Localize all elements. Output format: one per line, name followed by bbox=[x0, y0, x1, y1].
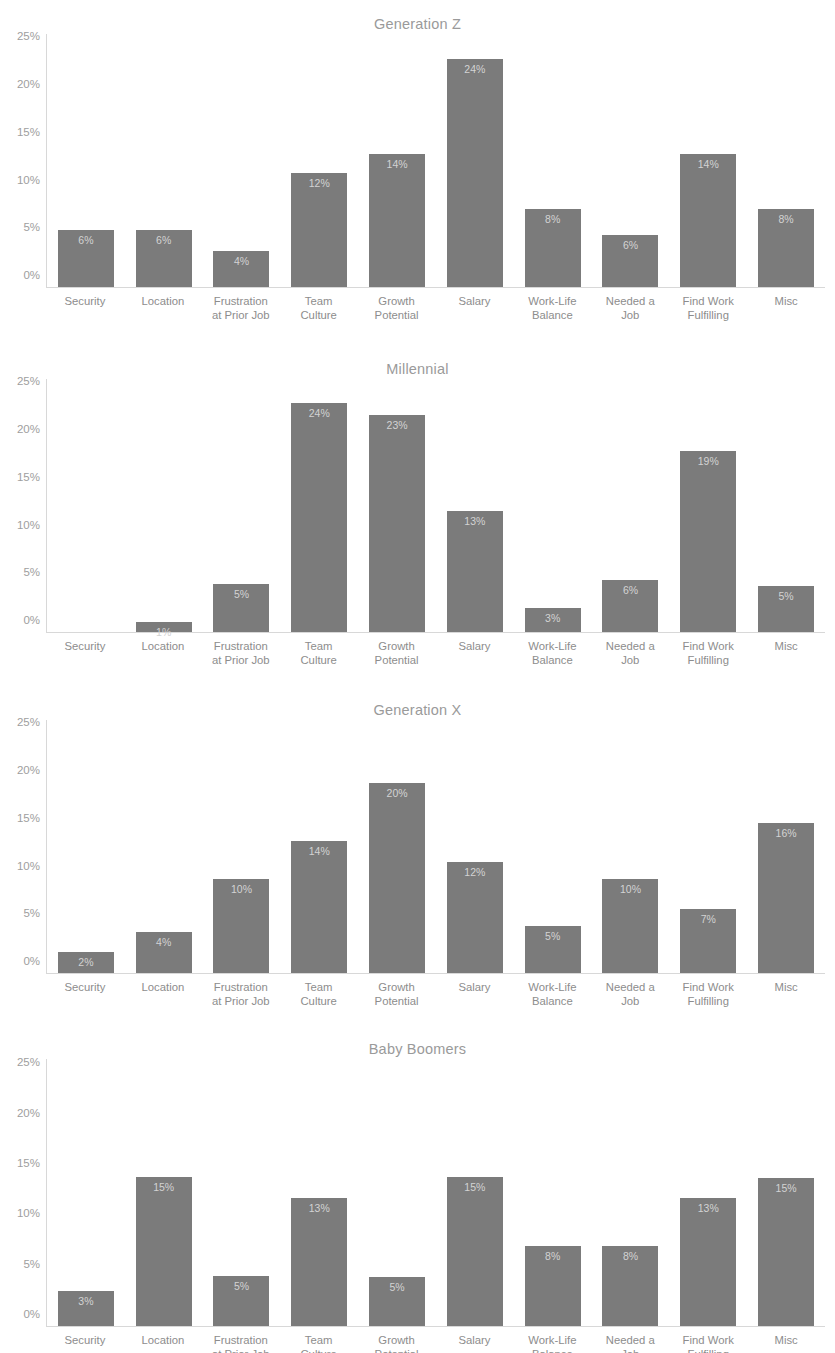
bar: 6% bbox=[602, 235, 658, 288]
bar: 4% bbox=[213, 251, 269, 287]
bar-series: 1%5%24%23%13%3%6%19%5% bbox=[47, 379, 825, 632]
x-axis-tick-label: Find Work Fulfilling bbox=[669, 635, 747, 679]
bar: 19% bbox=[680, 451, 736, 632]
bar: 15% bbox=[136, 1177, 192, 1326]
y-axis-tick-label: 25% bbox=[17, 1056, 47, 1068]
bar-cell: 10% bbox=[592, 720, 670, 973]
plot-area: 0%5%10%15%20%25%6%6%4%12%14%24%8%6%14%8% bbox=[46, 34, 825, 288]
bar: 12% bbox=[291, 173, 347, 287]
bar: 14% bbox=[680, 154, 736, 287]
bar-value-label: 15% bbox=[447, 1181, 503, 1193]
bar: 15% bbox=[447, 1177, 503, 1326]
x-axis-tick-label: Misc bbox=[747, 1329, 825, 1353]
bar-cell: 4% bbox=[125, 720, 203, 973]
bar-cell: 13% bbox=[280, 1059, 358, 1326]
bar-cell: 24% bbox=[436, 34, 514, 287]
x-axis-tick-label: Security bbox=[46, 635, 124, 679]
bar-value-label: 20% bbox=[369, 787, 425, 799]
x-axis-tick-label: Work-Life Balance bbox=[513, 635, 591, 679]
x-axis-tick-label: Salary bbox=[436, 290, 514, 334]
bar-cell: 14% bbox=[280, 720, 358, 973]
x-axis-tick-label: Location bbox=[124, 290, 202, 334]
bar: 20% bbox=[369, 783, 425, 973]
bar: 13% bbox=[291, 1198, 347, 1326]
bar: 6% bbox=[58, 230, 114, 287]
bar-cell: 8% bbox=[514, 1059, 592, 1326]
bar: 5% bbox=[758, 586, 814, 632]
x-axis-tick-label: Team Culture bbox=[280, 635, 358, 679]
bar-series: 2%4%10%14%20%12%5%10%7%16% bbox=[47, 720, 825, 973]
x-axis-tick-label: Find Work Fulfilling bbox=[669, 976, 747, 1020]
y-axis-tick-label: 20% bbox=[17, 78, 47, 90]
y-axis-tick-label: 5% bbox=[23, 221, 47, 233]
bar: 2% bbox=[58, 952, 114, 973]
y-axis-tick-label: 10% bbox=[17, 860, 47, 872]
x-axis-tick-label: Security bbox=[46, 1329, 124, 1353]
y-axis-tick-label: 20% bbox=[17, 423, 47, 435]
y-axis-tick-label: 15% bbox=[17, 126, 47, 138]
bar-cell: 3% bbox=[47, 1059, 125, 1326]
bar-cell: 14% bbox=[358, 34, 436, 287]
plot-area: 0%5%10%15%20%25%2%4%10%14%20%12%5%10%7%1… bbox=[46, 720, 825, 974]
bar-cell bbox=[47, 379, 125, 632]
bar-value-label: 6% bbox=[136, 234, 192, 246]
bar-value-label: 3% bbox=[525, 612, 581, 624]
bar-value-label: 4% bbox=[213, 255, 269, 267]
plot-area: 0%5%10%15%20%25%1%5%24%23%13%3%6%19%5% bbox=[46, 379, 825, 633]
x-axis-tick-label: Salary bbox=[436, 1329, 514, 1353]
bar-value-label: 15% bbox=[136, 1181, 192, 1193]
bar-cell: 13% bbox=[436, 379, 514, 632]
bar: 24% bbox=[291, 403, 347, 632]
x-axis-tick-label: Frustration at Prior Job bbox=[202, 635, 280, 679]
x-axis-labels: SecurityLocationFrustration at Prior Job… bbox=[46, 976, 825, 1020]
x-axis-tick-label: Work-Life Balance bbox=[513, 1329, 591, 1353]
bar: 6% bbox=[602, 580, 658, 633]
y-axis-tick-label: 10% bbox=[17, 519, 47, 531]
bar-cell: 15% bbox=[436, 1059, 514, 1326]
bar-value-label: 14% bbox=[369, 158, 425, 170]
x-axis-tick-label: Needed a Job bbox=[591, 290, 669, 334]
x-axis-tick-label: Team Culture bbox=[280, 290, 358, 334]
bar-cell: 8% bbox=[747, 34, 825, 287]
bar: 16% bbox=[758, 823, 814, 973]
chart-title: Millennial bbox=[0, 359, 835, 379]
chart-title: Baby Boomers bbox=[0, 1039, 835, 1059]
bar-cell: 3% bbox=[514, 379, 592, 632]
y-axis-tick-label: 0% bbox=[23, 955, 47, 967]
x-axis-tick-label: Location bbox=[124, 635, 202, 679]
x-axis-tick-label: Salary bbox=[436, 976, 514, 1020]
bar-cell: 16% bbox=[747, 720, 825, 973]
y-axis-tick-label: 15% bbox=[17, 812, 47, 824]
bar-value-label: 24% bbox=[291, 407, 347, 419]
bar-value-label: 4% bbox=[136, 936, 192, 948]
bar-cell: 6% bbox=[592, 379, 670, 632]
y-axis-tick-label: 25% bbox=[17, 716, 47, 728]
bar-cell: 8% bbox=[514, 34, 592, 287]
x-axis-tick-label: Location bbox=[124, 976, 202, 1020]
bar-value-label: 15% bbox=[758, 1182, 814, 1194]
bar-value-label: 7% bbox=[680, 913, 736, 925]
bar-value-label: 19% bbox=[680, 455, 736, 467]
bar-value-label: 8% bbox=[525, 213, 581, 225]
x-axis-tick-label: Frustration at Prior Job bbox=[202, 1329, 280, 1353]
x-axis-tick-label: Work-Life Balance bbox=[513, 290, 591, 334]
x-axis-tick-label: Security bbox=[46, 290, 124, 334]
plot-wrapper: 0%5%10%15%20%25%2%4%10%14%20%12%5%10%7%1… bbox=[0, 720, 835, 1020]
x-axis-tick-label: Needed a Job bbox=[591, 976, 669, 1020]
bar-value-label: 8% bbox=[525, 1250, 581, 1262]
bar-value-label: 3% bbox=[58, 1295, 114, 1307]
bar-value-label: 8% bbox=[758, 213, 814, 225]
bar-cell: 15% bbox=[125, 1059, 203, 1326]
bar-series: 3%15%5%13%5%15%8%8%13%15% bbox=[47, 1059, 825, 1326]
x-axis-tick-label: Needed a Job bbox=[591, 1329, 669, 1353]
bar-cell: 5% bbox=[203, 1059, 281, 1326]
bar-cell: 24% bbox=[280, 379, 358, 632]
bar: 8% bbox=[602, 1246, 658, 1326]
y-axis-tick-label: 20% bbox=[17, 1107, 47, 1119]
bar-value-label: 14% bbox=[680, 158, 736, 170]
bar-value-label: 6% bbox=[602, 239, 658, 251]
cut-off-header-text bbox=[0, 0, 835, 8]
x-axis-tick-label: Growth Potential bbox=[358, 290, 436, 334]
x-axis-labels: SecurityLocationFrustration at Prior Job… bbox=[46, 1329, 825, 1353]
x-axis-tick-label: Team Culture bbox=[280, 1329, 358, 1353]
